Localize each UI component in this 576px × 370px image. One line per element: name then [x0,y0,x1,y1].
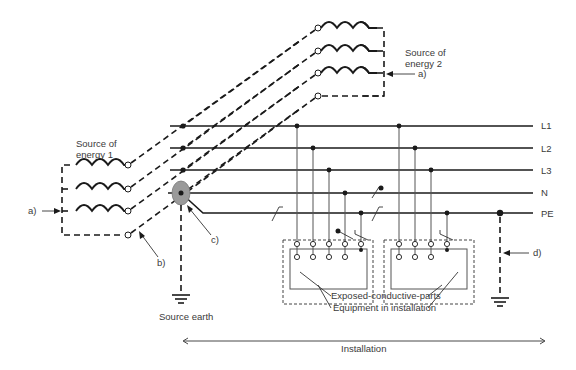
callout-a-right: a) [418,68,426,79]
arrowhead-icon [386,71,393,77]
installation-earth: d) [491,210,541,306]
coil-icon [76,183,128,189]
coil-icon [76,159,128,165]
conductor-PE [181,193,533,213]
coil-icon [76,205,128,211]
callout-c-arrow [189,208,211,235]
label-PE: PE [541,208,554,219]
earthing-diagram: Source of energy 2 a) Source of energy 1… [0,0,576,370]
callout-b-arrow [141,234,158,257]
ground-icon [172,295,190,303]
isolation-marks [272,186,384,222]
label-L3: L3 [541,165,552,176]
terminal-icon [125,186,131,192]
source-1: Source of energy 1 a) [28,138,131,238]
source-2-links [183,30,315,193]
terminal-icon [125,232,131,238]
label-N: N [541,187,548,198]
source-2-label-line1: Source of [405,47,446,58]
bus-conductors [168,123,533,213]
arrowhead-icon [503,250,510,256]
source-earth-label: Source earth [159,311,213,322]
callout-b: b) [157,257,165,268]
source-earth: Source earth c) [159,181,219,322]
source-1-label-line1: Source of [76,138,117,149]
callout-d: d) [533,247,541,258]
terminal-icon [125,208,131,214]
terminal-icon [125,162,131,168]
arrowhead-icon [54,208,61,214]
label-L2: L2 [541,143,552,154]
callout-c: c) [211,234,219,245]
ground-icon [491,298,509,306]
exposed-parts-label: Exposed-conductive-parts [331,290,441,301]
installation-span: Installation [183,338,545,354]
source-1-label-line2: energy 1 [76,149,113,160]
callout-a-left: a) [28,205,36,216]
installation-label: Installation [341,343,386,354]
equipment-label: Equipment in installation [333,302,436,313]
label-L1: L1 [541,120,552,131]
